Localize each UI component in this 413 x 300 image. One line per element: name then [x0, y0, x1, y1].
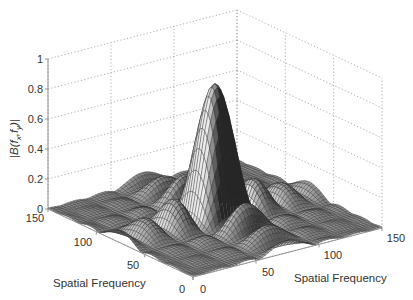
left-axis-label: Spatial Frequency — [53, 277, 146, 289]
grid-line — [48, 40, 237, 89]
surface-mesh — [48, 84, 382, 276]
right-tick-150: 150 — [387, 232, 405, 244]
z-tick-0.6: 0.6 — [28, 113, 43, 125]
grid-line — [237, 40, 382, 108]
left-tick-0: 0 — [179, 283, 185, 295]
left-tick-50: 50 — [127, 259, 139, 271]
right-tick-0: 0 — [200, 283, 206, 295]
right-tick-100: 100 — [324, 249, 342, 261]
z-tick-0.2: 0.2 — [28, 173, 43, 185]
z-axis-label: |B(fx,fy)| — [8, 119, 23, 158]
grid-line — [48, 10, 237, 59]
grid-line — [237, 10, 382, 78]
right-axis-label: Spatial Frequency — [294, 272, 387, 284]
right-tick-50: 50 — [262, 266, 274, 278]
left-tick-150: 150 — [26, 212, 44, 224]
grid-line — [237, 70, 382, 138]
z-tick-1: 1 — [37, 53, 43, 65]
surface-plot: 0 0.2 0.4 0.6 0.8 1 0 50 100 150 0 50 10… — [0, 0, 413, 300]
z-tick-0.8: 0.8 — [28, 83, 43, 95]
left-tick-100: 100 — [74, 236, 92, 248]
grid-line — [237, 100, 382, 168]
z-axis-ticks: 0 0.2 0.4 0.6 0.8 1 — [28, 53, 43, 215]
z-tick-0.4: 0.4 — [28, 143, 43, 155]
